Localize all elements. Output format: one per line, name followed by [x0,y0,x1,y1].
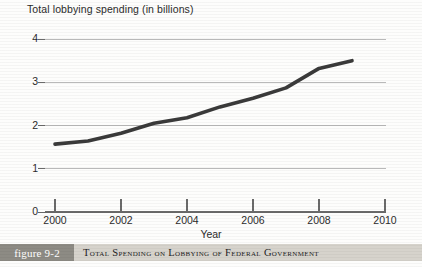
x-axis-tick-label-2008: 2008 [307,214,330,226]
x-axis-tick-mark-2010 [384,199,385,211]
gridline-y-1 [45,168,386,169]
x-axis-tick-mark-2002 [120,199,121,211]
y-axis-tick-text: 3 [20,75,38,87]
line-series-total-lobbying-spending [55,61,352,144]
y-axis-tick-mark-2 [38,125,45,126]
x-axis-tick-label-2006: 2006 [241,214,264,226]
figure-caption-text: Total Spending on Lobbying of Federal Go… [83,247,319,258]
x-axis-tick-label-2004: 2004 [175,214,198,226]
y-axis-tick-mark-1 [38,168,45,169]
figure-number-tag: figure 9-2 [0,244,74,261]
x-axis-tick-label-2010: 2010 [373,214,396,226]
x-axis-line [45,211,386,213]
gridline-y-4 [45,39,386,40]
x-axis-tick-mark-2006 [252,199,253,211]
y-axis-tick-label-2: 2 [10,119,38,131]
y-axis-tick-label-4: 4 [10,32,38,44]
y-axis-tick-text: 0 [20,205,38,217]
x-axis-tick-mark-2000 [54,199,55,211]
y-axis-tick-mark-0 [38,212,45,213]
x-axis-tick-label-2000: 2000 [43,214,66,226]
line-series-svg [0,0,422,232]
gridline-y-3 [45,82,386,83]
y-axis-tick-label-3: 3 [10,75,38,87]
y-axis-tick-label-1: 1 [10,162,38,174]
y-axis-tick-mark-3 [38,82,45,83]
y-axis-tick-text: 2 [20,119,38,131]
plot-area: 01234 200020022004200620082010 Year [0,0,422,232]
y-axis-tick-label-0: 0 [10,205,38,217]
y-axis-tick-mark-4 [38,39,45,40]
x-axis-tick-mark-2008 [318,199,319,211]
y-axis-tick-text: 1 [20,162,38,174]
y-axis-tick-text: 4 [20,32,38,44]
gridline-y-2 [45,125,386,126]
x-axis-tick-mark-2004 [186,199,187,211]
figure-container: Total lobbying spending (in billions) 01… [0,0,422,267]
figure-caption-bar: figure 9-2 Total Spending on Lobbying of… [0,244,422,261]
x-axis-title: Year [0,228,422,240]
x-axis-tick-label-2002: 2002 [109,214,132,226]
